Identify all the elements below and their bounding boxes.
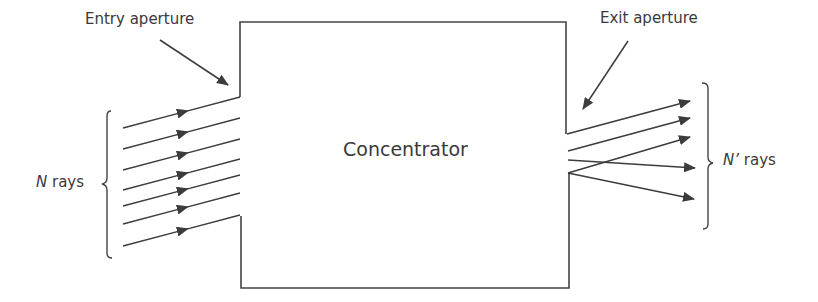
output-rays xyxy=(567,101,695,199)
output-ray xyxy=(568,137,690,173)
input-ray xyxy=(123,159,240,190)
input-brace xyxy=(102,111,112,258)
exit-aperture-label: Exit aperture xyxy=(600,9,698,27)
entry-aperture-pointer xyxy=(160,40,228,85)
concentrator-label: Concentrator xyxy=(343,138,468,160)
output-rays-label: N’ rays xyxy=(723,151,776,169)
input-rays-word: rays xyxy=(47,173,84,191)
lower-walls xyxy=(241,173,569,288)
input-ray xyxy=(123,175,240,206)
exit-aperture-pointer xyxy=(583,41,628,109)
output-ray xyxy=(568,173,694,199)
upper-left-wall xyxy=(240,22,566,134)
output-brace xyxy=(702,83,713,229)
output-rays-symbol: N’ xyxy=(723,151,739,169)
entry-aperture-label: Entry aperture xyxy=(85,10,194,28)
input-rays xyxy=(123,97,240,246)
input-rays-label: N rays xyxy=(36,173,84,191)
output-rays-word: rays xyxy=(739,151,776,169)
input-rays-symbol: N xyxy=(36,173,47,191)
output-ray xyxy=(568,118,690,151)
